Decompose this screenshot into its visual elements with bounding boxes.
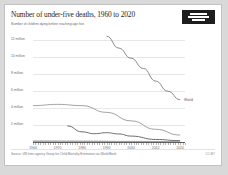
x-axis-tick: [183, 143, 184, 145]
x-axis-tick: [89, 143, 90, 145]
series-label-world: World: [184, 98, 193, 102]
x-axis-tick: [65, 143, 66, 145]
x-axis-tick: [165, 143, 166, 145]
y-axis-tick-label: 6 million: [11, 88, 23, 92]
x-axis-tick: [131, 143, 132, 145]
x-axis-tick: [84, 143, 85, 145]
x-axis-tick: [148, 143, 149, 145]
y-axis-tick-label: 8 million: [11, 71, 23, 75]
x-axis-tick: [43, 143, 44, 145]
chart-header: Number of under-five deaths, 1960 to 202…: [11, 11, 215, 31]
source-text: Source: UN Inter-agency Group for Child …: [11, 152, 215, 156]
series-line-india: [33, 104, 180, 135]
logo-bar-3: [192, 19, 205, 21]
x-axis-tick: [143, 143, 144, 145]
x-axis-tick: [134, 143, 135, 145]
x-axis-tick: [136, 143, 137, 145]
x-axis-tick: [119, 143, 120, 145]
x-axis-tick: [104, 143, 105, 145]
x-axis-tick: [102, 143, 103, 145]
x-axis-tick: [62, 143, 63, 145]
x-axis-tick: [114, 143, 115, 145]
x-axis-tick: [126, 143, 127, 145]
x-axis-tick: [141, 143, 142, 145]
x-axis-tick: [121, 143, 122, 145]
x-axis-tick: [35, 143, 36, 145]
x-axis-tick: [45, 143, 46, 145]
x-axis-tick: [107, 143, 108, 145]
x-axis-tick: [129, 143, 130, 145]
x-axis-tick: [168, 143, 169, 145]
x-axis-tick: [82, 143, 83, 145]
x-axis-tick: [53, 143, 54, 145]
chart-card: Number of under-five deaths, 1960 to 202…: [4, 4, 222, 166]
our-world-in-data-logo[interactable]: [182, 10, 215, 24]
y-axis-tick-label: 2 million: [11, 122, 23, 126]
x-axis-tick: [33, 143, 34, 145]
x-axis-tick: [173, 143, 174, 145]
x-axis-tick: [60, 143, 61, 145]
x-axis-tick: [146, 143, 147, 145]
y-axis-tick-label: 4 million: [11, 105, 23, 109]
x-axis-tick: [55, 143, 56, 145]
logo-bar-2: [188, 16, 209, 18]
x-axis-tick: [185, 143, 186, 145]
x-axis-tick: [156, 143, 157, 145]
x-axis-tick: [153, 143, 154, 145]
x-axis-tick: [80, 143, 81, 145]
x-axis-tick: [97, 143, 98, 145]
x-axis-tick: [92, 143, 93, 145]
x-axis-tick: [38, 143, 39, 145]
y-axis-tick-label: 12 million: [11, 37, 25, 41]
x-axis-tick: [75, 143, 76, 145]
x-axis-tick: [48, 143, 49, 145]
x-axis-tick: [109, 143, 110, 145]
x-axis-tick: [111, 143, 112, 145]
x-axis-tick: [50, 143, 51, 145]
x-axis-tick: [163, 143, 164, 145]
x-axis-tick: [94, 143, 95, 145]
x-axis-tick: [67, 143, 68, 145]
x-axis-tick: [151, 143, 152, 145]
x-axis-tick: [77, 143, 78, 145]
series-line-china: [67, 126, 180, 141]
series-lines: [33, 32, 187, 144]
x-axis-tick: [175, 143, 176, 145]
x-axis-tick: [58, 143, 59, 145]
x-axis-tick: [116, 143, 117, 145]
chart-footer: Source: UN Inter-agency Group for Child …: [11, 149, 215, 161]
x-axis-tick: [87, 143, 88, 145]
x-axis-tick: [40, 143, 41, 145]
chart-plot-area: 2 million4 million6 million8 million10 m…: [11, 32, 217, 154]
x-axis-tick: [160, 143, 161, 145]
x-axis-tick: [180, 143, 181, 145]
y-axis-tick-label: 10 million: [11, 54, 25, 58]
logo-bar-1: [190, 13, 207, 15]
x-axis-tick: [178, 143, 179, 145]
series-line-world: [107, 36, 181, 99]
x-axis-tick: [124, 143, 125, 145]
x-axis-tick: [99, 143, 100, 145]
x-axis-tick: [158, 143, 159, 145]
x-axis-tick: [138, 143, 139, 145]
x-axis-tick: [72, 143, 73, 145]
x-axis-tick: [70, 143, 71, 145]
x-axis-tick: [170, 143, 171, 145]
license-text[interactable]: CC BY: [206, 152, 215, 156]
